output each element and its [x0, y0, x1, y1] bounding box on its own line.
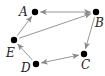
node-label: A	[18, 5, 28, 19]
edge-d-e-arrow	[18, 44, 33, 60]
node-b: B	[93, 9, 104, 30]
node-label: C	[81, 58, 90, 72]
node-dot-icon	[11, 37, 17, 43]
node-dot-icon	[93, 9, 99, 15]
node-dot-icon	[33, 61, 39, 67]
edge-b-c-arrow	[85, 17, 94, 49]
node-d: D	[20, 61, 39, 75]
edge-d-c-bidirectional-arrow	[41, 55, 78, 63]
directed-graph: ABCDE	[0, 0, 105, 76]
node-c: C	[81, 51, 90, 72]
node-label: D	[20, 61, 31, 75]
node-dot-icon	[32, 9, 38, 15]
node-label: B	[94, 16, 104, 30]
node-e: E	[5, 37, 17, 60]
edge-e-a-arrow	[17, 16, 32, 35]
edge-e-b-arrow	[19, 14, 91, 39]
node-dot-icon	[81, 51, 87, 57]
nodes-layer: ABCDE	[5, 5, 104, 75]
node-a: A	[18, 5, 38, 19]
node-label: E	[5, 46, 15, 60]
